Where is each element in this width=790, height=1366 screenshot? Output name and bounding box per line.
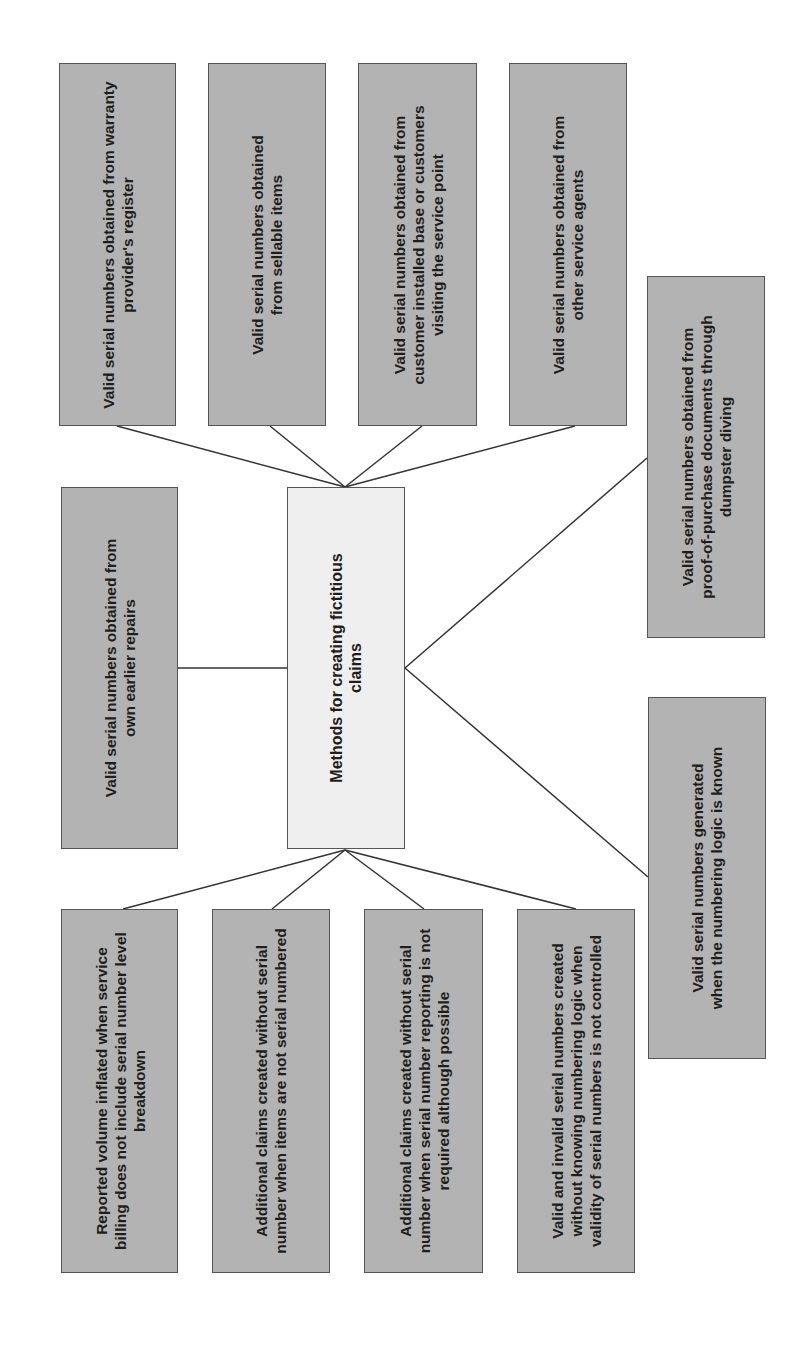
method-box-numbering-logic-known: Valid serial numbers generated when the … (648, 697, 766, 1059)
center-label: Methods for creating fictitious claims (327, 548, 365, 788)
method-label: Valid serial numbers obtained from custo… (389, 90, 446, 400)
method-label: Valid and invalid serial numbers created… (548, 926, 605, 1256)
connector-top-3 (345, 426, 422, 487)
connector-bottom-4 (345, 850, 576, 909)
method-box-dumpster-diving: Valid serial numbers obtained from proof… (647, 276, 765, 638)
connector-top-4 (345, 426, 575, 487)
connector-right-lower (405, 668, 648, 877)
method-box-own-earlier-repairs: Valid serial numbers obtained from own e… (61, 487, 178, 849)
method-box-reporting-not-required: Additional claims created without serial… (364, 909, 483, 1273)
method-label: Additional claims created without serial… (252, 926, 290, 1256)
center-box-methods: Methods for creating fictitious claims (287, 487, 405, 849)
method-label: Valid serial numbers generated when the … (688, 743, 726, 1013)
method-box-other-service-agents: Valid serial numbers obtained from other… (509, 63, 627, 426)
fictitious-claims-diagram: Valid serial numbers obtained from warra… (0, 0, 790, 1366)
method-box-sellable-items: Valid serial numbers obtained from sella… (208, 63, 326, 426)
connector-bottom-1 (123, 850, 345, 909)
method-label: Valid serial numbers obtained from own e… (101, 538, 139, 798)
connector-top-1 (117, 426, 345, 487)
method-label: Valid serial numbers obtained from proof… (678, 307, 735, 607)
method-label: Valid serial numbers obtained from sella… (248, 120, 286, 370)
method-label: Valid serial numbers obtained from warra… (99, 75, 137, 415)
connector-top-2 (270, 426, 345, 487)
method-label: Additional claims created without serial… (395, 926, 452, 1256)
connector-right-upper (405, 458, 647, 668)
method-label: Reported volume inflated when service bi… (91, 926, 148, 1256)
method-box-reported-volume-inflated: Reported volume inflated when service bi… (61, 909, 178, 1273)
method-box-warranty-register: Valid serial numbers obtained from warra… (59, 63, 176, 426)
method-box-validity-not-controlled: Valid and invalid serial numbers created… (517, 909, 635, 1273)
connector-bottom-2 (272, 850, 345, 909)
method-box-customer-installed-base: Valid serial numbers obtained from custo… (358, 63, 477, 426)
connector-bottom-3 (345, 850, 424, 909)
method-label: Valid serial numbers obtained from other… (549, 115, 587, 375)
method-box-items-not-serial-numbered: Additional claims created without serial… (212, 909, 330, 1273)
